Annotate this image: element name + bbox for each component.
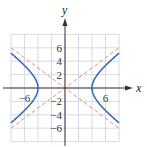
y-tick-label: −2	[50, 95, 62, 107]
hyperbola-graph: 642−2−4−6−66 x y	[0, 0, 147, 147]
y-axis-label: y	[61, 3, 68, 17]
x-axis-arrow-icon	[125, 86, 133, 91]
y-axis-arrow-icon	[63, 18, 68, 26]
y-tick-label: −4	[50, 109, 62, 121]
y-tick-label: 2	[57, 69, 63, 81]
x-axis-label: x	[135, 81, 142, 95]
x-tick-label: 6	[103, 92, 109, 104]
axes	[3, 18, 133, 146]
y-tick-label: 4	[57, 55, 63, 67]
y-tick-label: 6	[57, 42, 63, 54]
y-tick-label: −6	[50, 122, 62, 134]
x-tick-label: −6	[19, 92, 31, 104]
